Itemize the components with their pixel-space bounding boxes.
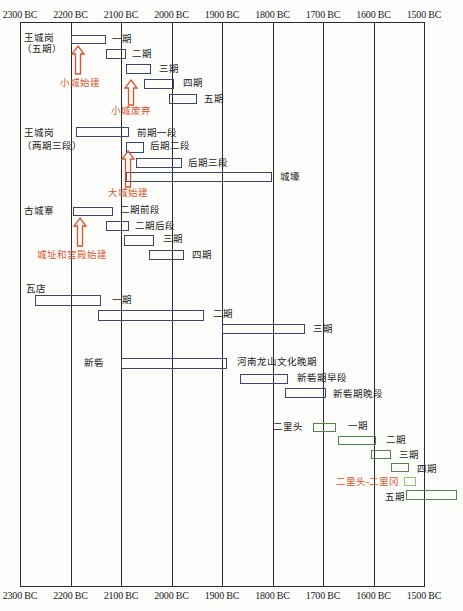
phase-bar xyxy=(371,450,391,459)
phase-label: 新砦期早段 xyxy=(297,372,347,384)
phase-label: 河南龙山文化晚期 xyxy=(237,356,317,368)
x-tick-bottom-1700: 1700 BC xyxy=(301,590,345,602)
site-label-erlitou: 二里头 xyxy=(273,421,303,433)
x-tick-bottom-2000: 2000 BC xyxy=(150,590,194,602)
x-tick-bottom-2100: 2100 BC xyxy=(99,590,143,602)
phase-label: 一期 xyxy=(112,294,132,306)
phase-label-erlitou-erligang: 二里头-二里冈 xyxy=(336,476,399,488)
phase-label: 三期 xyxy=(399,449,419,461)
timeline-chart: 2300 BC 2200 BC 2100 BC 2000 BC 1900 BC … xyxy=(0,0,463,611)
site-label-xinzhai: 新砦 xyxy=(84,357,104,369)
phase-label: 四期 xyxy=(417,463,437,475)
phase-label: 二期 xyxy=(386,434,406,446)
phase-bar xyxy=(222,324,305,334)
phase-label: 三期 xyxy=(313,323,333,335)
x-tick-bottom-1800: 1800 BC xyxy=(251,590,295,602)
phase-bar xyxy=(406,490,457,500)
phase-bar xyxy=(404,477,417,486)
phase-label: 五期 xyxy=(385,491,405,503)
x-tick-bottom-1500: 1500 BC xyxy=(402,590,446,602)
phase-bar xyxy=(240,374,288,384)
phase-bar xyxy=(338,436,376,445)
phase-bar xyxy=(285,388,325,398)
phase-label: 新砦期晚段 xyxy=(333,388,383,400)
x-tick-bottom-2300: 2300 BC xyxy=(0,590,42,602)
annotation-city-and-palace-built: 城址和宫殿始建 xyxy=(37,249,107,261)
x-tick-bottom-1900: 1900 BC xyxy=(200,590,244,602)
x-tick-bottom-1600: 1600 BC xyxy=(352,590,396,602)
site-label-wadian: 瓦店 xyxy=(26,283,46,295)
phase-label: 一期 xyxy=(348,420,368,432)
phase-bar xyxy=(35,295,101,306)
phase-bar xyxy=(98,310,204,321)
phase-bar xyxy=(121,358,227,369)
x-tick-bottom-2200: 2200 BC xyxy=(49,590,93,602)
phase-label: 二期 xyxy=(213,308,233,320)
phase-bar xyxy=(313,423,336,432)
phase-bar xyxy=(391,463,409,472)
